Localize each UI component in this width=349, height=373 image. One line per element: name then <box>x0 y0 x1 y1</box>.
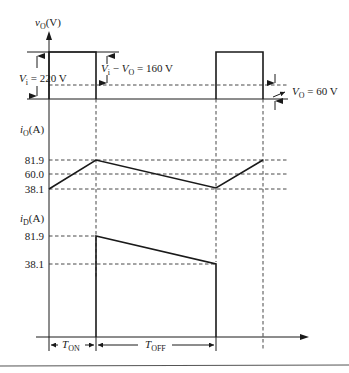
io-tick-min: 38.1 <box>25 183 44 195</box>
io-tick-avg: 60.0 <box>25 168 45 180</box>
y-axis-arrow-icon <box>46 31 52 40</box>
time-markers <box>96 99 263 350</box>
t-off-label: TOFF <box>145 338 166 353</box>
id-waveform <box>96 236 216 337</box>
bottom-divider <box>0 365 349 366</box>
vo-axis-label: vO(V) <box>35 16 61 31</box>
vo-panel: vO(V) Vi = 220 V Vi − VO = 160 V VO = 60… <box>19 16 338 110</box>
id-tick-min: 38.1 <box>25 258 44 270</box>
vo-pointer-arrow-icon <box>273 92 285 97</box>
time-axis-arrow-icon <box>300 334 309 340</box>
io-tick-max: 81.9 <box>25 154 45 166</box>
io-panel: iO(A) 81.9 60.0 38.1 <box>20 123 288 195</box>
vi-minus-vo-annotation: Vi − VO = 160 V <box>101 62 173 77</box>
vi-annotation: Vi = 220 V <box>19 72 67 87</box>
buck-converter-waveform-diagram: vO(V) Vi = 220 V Vi − VO = 160 V VO = 60… <box>0 0 349 373</box>
time-axis: TON TOFF <box>36 334 309 353</box>
id-axis-label: iD(A) <box>20 212 44 227</box>
id-tick-max: 81.9 <box>25 230 45 242</box>
io-axis-label: iO(A) <box>20 123 44 138</box>
t-on-label: TON <box>62 338 80 353</box>
io-waveform <box>49 160 263 189</box>
vo-pulse-2 <box>216 52 263 99</box>
vo-annotation: VO = 60 V <box>292 85 338 100</box>
